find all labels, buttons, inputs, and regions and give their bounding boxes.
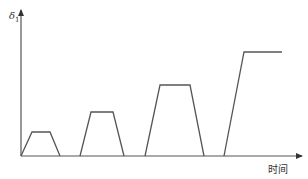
- x-axis-label: 时间: [268, 161, 288, 176]
- axes: [21, 10, 302, 156]
- pulse-diagram: [0, 0, 308, 179]
- pulse-3: [145, 85, 204, 156]
- pulse-4: [224, 52, 282, 156]
- pulse-1: [21, 132, 60, 156]
- y-axis-label: δ1: [9, 10, 20, 24]
- pulse-series: [21, 52, 282, 156]
- pulse-2: [80, 112, 124, 156]
